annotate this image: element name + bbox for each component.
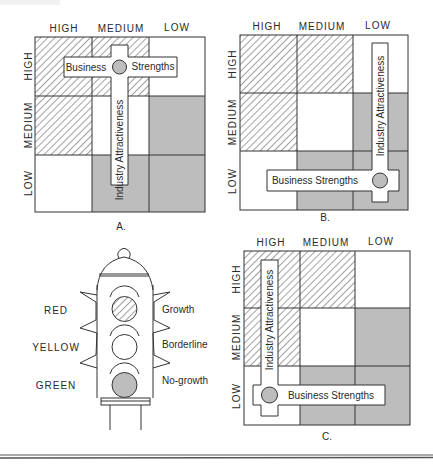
panel-a-col-high: HIGH bbox=[50, 23, 79, 34]
panel-c: HIGH MEDIUM LOW HIGH MEDIUM LOW Business… bbox=[231, 236, 410, 442]
panel-b-col-high: HIGH bbox=[253, 21, 282, 32]
panel-a-position-marker bbox=[113, 60, 127, 74]
growth-label: Growth bbox=[162, 304, 194, 315]
panel-a-strengths-label: Strengths bbox=[132, 61, 175, 72]
panel-c-industry-attractiveness-label: Industry Attractiveness bbox=[264, 270, 275, 371]
yellow-light-clear bbox=[112, 335, 137, 360]
gameboard-figure: HIGH MEDIUM LOW HIGH MEDIUM LOW Business… bbox=[0, 0, 433, 464]
panel-b-col-medium: MEDIUM bbox=[299, 21, 346, 32]
panel-c-col-medium: MEDIUM bbox=[303, 237, 350, 248]
traffic-light bbox=[80, 249, 170, 430]
panel-a-cell-ml bbox=[149, 96, 205, 155]
panel-a-row-high: HIGH bbox=[23, 52, 34, 81]
panel-b-cell-hm bbox=[297, 35, 353, 93]
panel-c-position-marker bbox=[262, 387, 278, 403]
panel-b-row-medium: MEDIUM bbox=[227, 99, 238, 146]
red-label: RED bbox=[44, 305, 68, 316]
panel-c-row-high: HIGH bbox=[231, 265, 242, 294]
panel-c-caption: C. bbox=[322, 431, 332, 442]
panel-a-row-medium: MEDIUM bbox=[23, 102, 34, 149]
panel-a-row-low: LOW bbox=[23, 170, 34, 196]
panel-b-cell-mh bbox=[240, 93, 297, 151]
borderline-label: Borderline bbox=[162, 339, 208, 350]
panel-a-col-low: LOW bbox=[164, 22, 190, 33]
panel-b-cell-hh bbox=[240, 35, 297, 93]
panel-b-business-strengths-label: Business Strengths bbox=[272, 175, 358, 186]
panel-a-industry-attractiveness-label: Industry Attractiveness bbox=[114, 100, 125, 201]
panel-a-cell-ll bbox=[149, 155, 205, 212]
panel-a-col-medium: MEDIUM bbox=[98, 23, 145, 34]
panel-b-row-low: LOW bbox=[227, 168, 238, 194]
bottom-rule-2 bbox=[0, 458, 433, 459]
panel-a-caption: A. bbox=[116, 221, 125, 232]
panel-c-business-strengths-label: Business Strengths bbox=[288, 390, 374, 401]
panel-a-business-label: Business bbox=[66, 62, 107, 73]
panel-c-col-low: LOW bbox=[368, 236, 394, 247]
panel-a: HIGH MEDIUM LOW HIGH MEDIUM LOW Business… bbox=[23, 22, 205, 232]
yellow-label: YELLOW bbox=[32, 342, 80, 353]
panel-a-cell-lh bbox=[35, 155, 92, 212]
red-light-hatched bbox=[112, 297, 137, 322]
green-light-shaded bbox=[112, 373, 137, 398]
panel-c-row-low: LOW bbox=[231, 383, 242, 409]
green-label: GREEN bbox=[36, 380, 77, 391]
panel-b-row-high: HIGH bbox=[227, 50, 238, 79]
panel-c-cell-ml bbox=[355, 308, 410, 366]
panel-c-cell-mm bbox=[300, 308, 355, 366]
panel-b-col-low: LOW bbox=[365, 20, 391, 31]
panel-c-cell-hm bbox=[300, 251, 355, 308]
panel-b: HIGH MEDIUM LOW HIGH MEDIUM LOW Business… bbox=[227, 20, 408, 223]
panel-b-industry-attractiveness-label: Industry Attractiveness bbox=[375, 56, 386, 157]
panel-a-cell-mh bbox=[35, 96, 92, 155]
panel-c-row-medium: MEDIUM bbox=[231, 314, 242, 361]
panel-b-caption: B. bbox=[320, 212, 329, 223]
panel-b-position-marker bbox=[373, 173, 388, 188]
panel-b-cell-mm bbox=[297, 93, 353, 151]
no-growth-label: No-growth bbox=[162, 375, 208, 386]
panel-c-cell-hl bbox=[355, 251, 410, 308]
panel-c-col-high: HIGH bbox=[257, 237, 286, 248]
